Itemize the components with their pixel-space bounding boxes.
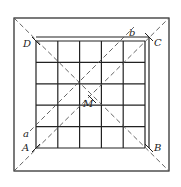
label-b: b <box>129 27 135 38</box>
corner-ticks <box>32 33 153 152</box>
grid <box>36 41 145 148</box>
line-ab <box>30 27 134 131</box>
label-B: B <box>153 142 161 153</box>
label-a: a <box>23 128 29 139</box>
label-M: M <box>82 98 94 109</box>
label-D: D <box>22 38 31 49</box>
label-C: C <box>154 37 162 48</box>
label-A: A <box>21 142 29 153</box>
geometry-diagram: D C A B M a b <box>0 0 181 187</box>
